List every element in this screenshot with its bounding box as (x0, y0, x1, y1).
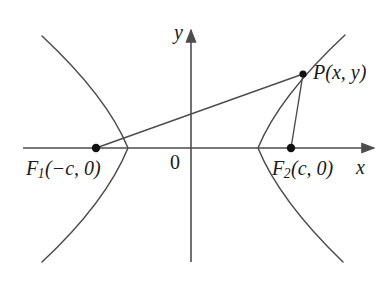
hyperbola-figure: F1(−c, 0) F2(c, 0) P(x, y) y x 0 (0, 0, 391, 289)
origin-label: 0 (170, 152, 180, 172)
focus-right-label-name: F (272, 157, 284, 179)
x-axis-label: x (356, 157, 365, 177)
point-p-label-coords: (x, y) (325, 61, 366, 83)
focal-radius-f1-p (96, 74, 303, 148)
focus-left-dot (92, 144, 100, 152)
focus-right-label-coords: (c, 0) (291, 157, 333, 179)
focus-right-label: F2(c, 0) (272, 158, 333, 178)
focus-right-label-subscript: 2 (284, 166, 291, 181)
point-p-label-name: P (313, 61, 325, 83)
focus-left-label-name: F (26, 157, 38, 179)
figure-canvas (0, 0, 391, 289)
hyperbola-left-branch (42, 36, 128, 262)
point-p-dot (299, 70, 306, 77)
focus-left-label-subscript: 1 (38, 166, 45, 181)
point-p-label: P(x, y) (313, 62, 366, 82)
focus-right-dot (287, 144, 295, 152)
focus-left-label-coords: (−c, 0) (45, 157, 101, 179)
y-axis-label: y (174, 22, 183, 42)
focus-left-label: F1(−c, 0) (26, 158, 101, 178)
